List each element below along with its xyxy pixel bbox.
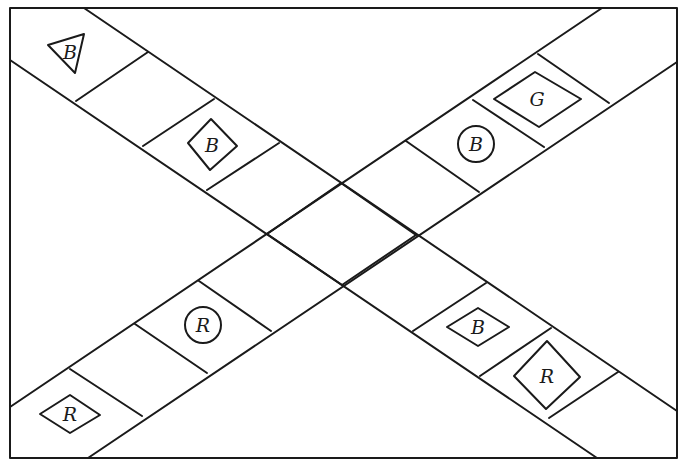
piece-label: R xyxy=(195,314,210,336)
piece-label: B xyxy=(62,41,77,63)
ascending-band xyxy=(10,8,677,458)
cell-divider xyxy=(76,52,148,101)
board-border xyxy=(10,8,677,458)
diamond-piece-g: G xyxy=(494,72,581,127)
cell-divider xyxy=(341,183,416,235)
piece-label: R xyxy=(62,403,77,425)
game-pieces: BBGBRRBR xyxy=(40,34,581,433)
circle-piece-r: R xyxy=(185,307,221,343)
piece-label: G xyxy=(529,88,544,110)
piece-label: B xyxy=(470,316,485,338)
piece-label: B xyxy=(468,133,483,155)
cell-divider xyxy=(267,234,342,285)
diamond-piece-r-lower-left: R xyxy=(40,395,100,433)
crossing-board-diagram: BBGBRRBR xyxy=(0,0,684,466)
descending-band xyxy=(10,8,677,458)
diamond-piece-r-lower-right: R xyxy=(514,341,580,409)
band-edge xyxy=(10,8,602,407)
piece-label: B xyxy=(204,134,219,156)
diamond-piece-b-upper: B xyxy=(188,119,237,170)
circle-piece-b: B xyxy=(458,126,494,162)
band-edge xyxy=(88,62,677,458)
track-bands xyxy=(10,8,677,458)
diamond-piece-b-lower: B xyxy=(447,308,509,346)
piece-label: R xyxy=(539,365,554,387)
cell-divider xyxy=(342,235,416,285)
triangle-piece-b: B xyxy=(48,34,84,73)
